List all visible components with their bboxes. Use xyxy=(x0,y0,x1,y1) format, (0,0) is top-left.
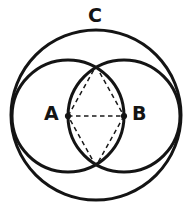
geometry-figure: C A B xyxy=(0,0,189,217)
dashed-top-cusp-to-B xyxy=(96,66,124,116)
point-a-marker xyxy=(65,113,71,119)
label-point-a: A xyxy=(44,104,59,123)
geometry-canvas xyxy=(0,0,189,217)
dashed-A-to-top-cusp xyxy=(68,66,96,116)
label-circle-c: C xyxy=(88,6,102,25)
dashed-bottom-cusp-to-A xyxy=(68,116,96,166)
point-b-marker xyxy=(121,113,127,119)
circle-c xyxy=(11,30,181,200)
label-point-b: B xyxy=(132,104,146,123)
dashed-B-to-bottom-cusp xyxy=(96,116,124,166)
